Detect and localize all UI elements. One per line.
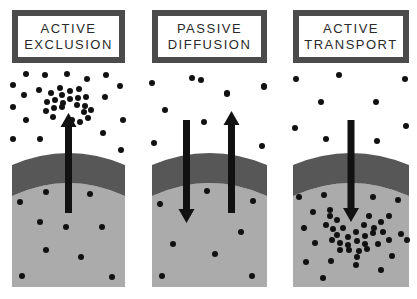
particle-outside [162,107,168,113]
particle-outside [36,87,42,93]
particle-outside [118,147,124,153]
particle-cluster [361,222,367,228]
particle-cluster [370,230,376,236]
particle-inside [170,241,176,247]
title-line-1: ACTIVE [41,21,97,37]
particle-cluster [337,240,343,246]
particle-outside [64,71,70,77]
particle-inside [212,251,218,257]
particle-cluster [354,254,360,260]
particle-cluster [85,115,91,121]
particle-cluster [345,234,351,240]
particle-cluster [59,104,65,110]
particle-cluster [337,247,343,253]
particle-cluster [52,97,58,103]
panel-passive-diffusion: PASSIVE DIFFUSION [139,0,279,299]
particle-outside [201,119,207,125]
particle-cluster [375,241,381,247]
particle-outside [10,82,16,88]
particle-inside [204,188,210,194]
particle-inside [109,274,115,280]
particle-outside [23,117,29,123]
particle-inside [43,189,49,195]
particle-inside [37,219,43,225]
title-box-active-exclusion: ACTIVE EXCLUSION [12,10,125,63]
particle-cluster [81,109,87,115]
particle-inside [87,191,93,197]
particle-inside [17,199,23,205]
particle-inside [159,273,165,279]
particle-cluster [51,105,57,111]
panel-active-exclusion: ACTIVE EXCLUSION [0,0,139,299]
particle-inside [321,192,327,198]
particle-cluster [345,242,351,248]
particle-outside [261,83,267,89]
particle-inside [378,267,384,273]
particle-inside [389,253,395,259]
particle-cluster [334,232,340,238]
particle-outside [21,92,27,98]
particle-outside [292,125,298,131]
particle-outside [117,83,123,89]
particle-cluster [88,107,94,113]
particle-inside [310,209,316,215]
title-line-2: TRANSPORT [304,37,397,53]
particle-cluster [346,247,352,253]
particle-inside [328,258,334,264]
particle-cluster [340,225,346,231]
particle-cluster [67,96,73,102]
particle-inside [157,201,163,207]
panel-active-transport: ACTIVE TRANSPORT [279,0,417,299]
title-box-active-transport: ACTIVE TRANSPORT [293,10,409,63]
particle-cluster [364,246,370,252]
particle-cluster [48,90,54,96]
particle-outside [151,140,157,146]
particle-outside [189,75,195,81]
particle-outside [149,80,155,86]
particle-outside [403,123,409,129]
particle-cluster [378,219,384,225]
particle-inside [404,237,410,243]
particle-inside [296,194,302,200]
particle-cluster [59,92,65,98]
particle-cluster [354,238,360,244]
particle-inside [386,237,392,243]
title-box-passive-diffusion: PASSIVE DIFFUSION [152,10,267,63]
title-line-1: PASSIVE [177,21,242,37]
particle-outside [224,91,230,97]
particle-cluster [67,88,73,94]
particle-cluster [327,213,333,219]
particle-inside [63,224,69,230]
particle-cluster [50,114,56,120]
title-line-1: ACTIVE [323,21,379,37]
particle-cluster [43,108,49,114]
particle-cluster [82,103,88,109]
particle-cluster [356,248,362,254]
particle-cluster [74,102,80,108]
particle-inside [78,254,84,260]
particle-inside [370,194,376,200]
particle-outside [100,130,106,136]
particle-outside [373,99,379,105]
particle-cluster [75,95,81,101]
particle-inside [250,198,256,204]
particle-cluster [362,233,368,239]
particle-inside [43,247,49,253]
particle-outside [259,143,265,149]
particle-outside [23,71,29,77]
particle-inside [395,197,401,203]
particle-cluster [57,85,63,91]
particle-inside [327,207,333,213]
particle-outside [103,72,109,78]
particle-outside [323,136,329,142]
particle-inside [320,275,326,281]
particle-cluster [76,86,82,92]
particle-outside [293,76,299,82]
particle-inside [249,273,255,279]
particle-inside [301,225,307,231]
particle-outside [120,117,126,123]
particle-cluster [329,237,335,243]
particle-outside [318,99,324,105]
particle-inside [19,273,25,279]
particle-cluster [334,217,340,223]
